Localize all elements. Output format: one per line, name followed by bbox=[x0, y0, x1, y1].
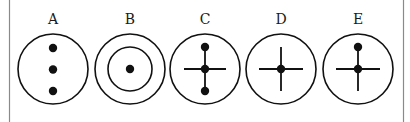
dot bbox=[126, 65, 134, 73]
dot bbox=[201, 43, 209, 51]
diagram-option-e: E bbox=[323, 11, 393, 104]
dot bbox=[201, 65, 209, 73]
dot bbox=[201, 87, 209, 95]
diagram-option-b: B bbox=[95, 11, 165, 104]
diagram-option-d: D bbox=[246, 11, 316, 104]
dot bbox=[49, 44, 57, 52]
figure-diagram: ABCDE bbox=[0, 0, 410, 122]
dot bbox=[49, 65, 57, 73]
diagram-option-a: A bbox=[18, 11, 88, 104]
dot bbox=[49, 87, 57, 95]
option-label: B bbox=[125, 11, 135, 27]
dot bbox=[354, 43, 362, 51]
diagram-canvas: ABCDE bbox=[0, 0, 410, 122]
diagram-option-c: C bbox=[170, 11, 240, 104]
dot bbox=[354, 65, 362, 73]
option-label: C bbox=[200, 11, 211, 27]
option-label: D bbox=[275, 11, 286, 27]
option-label: E bbox=[353, 11, 363, 27]
option-label: A bbox=[47, 11, 59, 27]
dot bbox=[277, 65, 285, 73]
